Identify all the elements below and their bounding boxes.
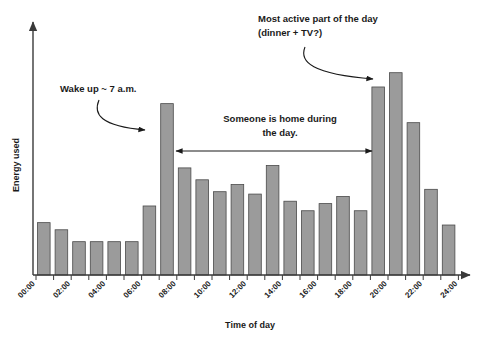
chart-canvas: 00:0002:0004:0006:0008:0010:0012:0014:00… [0,0,500,340]
bar [319,204,332,275]
x-tick-label: 08:00 [157,279,178,300]
bar [390,73,403,275]
bar [337,196,350,275]
x-tick-label: 14:00 [262,279,283,300]
energy-usage-bar-chart: 00:0002:0004:0006:0008:0010:0012:0014:00… [0,0,500,340]
bar [407,123,420,275]
annotation-most-active-label-line1: Most active part of the day [258,13,379,24]
x-tick-label: 12:00 [227,279,248,300]
x-tick-label: 20:00 [368,279,389,300]
annotation-most-active: Most active part of the day (dinner + TV… [258,13,379,79]
bar [372,87,385,275]
bar [266,166,279,275]
bar [73,242,86,275]
annotation-most-active-arrow-icon [304,47,373,79]
x-tick-label: 22:00 [403,279,424,300]
bar [161,104,174,275]
bar [354,211,367,275]
bars-group [38,73,455,275]
bar [55,230,68,275]
x-tick-label: 24:00 [438,279,459,300]
annotation-most-active-label-line2: (dinner + TV?) [258,27,322,38]
annotation-wake-up-arrow-icon [97,100,145,130]
bar [231,185,244,275]
bar [249,194,262,275]
x-tick-label: 18:00 [333,279,354,300]
y-axis-title: Energy used [11,138,21,192]
x-tick-labels: 00:0002:0004:0006:0008:0010:0012:0014:00… [16,279,460,300]
bar [90,242,103,275]
x-tick-label: 06:00 [122,279,143,300]
bar [108,242,121,275]
bar [38,223,51,275]
x-tick-label: 16:00 [298,279,319,300]
bar [126,242,139,275]
x-axis-title: Time of day [225,320,275,330]
bar [284,201,297,275]
x-tick-label: 10:00 [192,279,213,300]
annotation-someone-home-label-line2: the day. [262,127,297,138]
bar [214,192,227,275]
bar [302,211,315,275]
x-tick-label: 02:00 [51,279,72,300]
annotation-wake-up: Wake up ~ 7 a.m. [60,83,145,130]
x-tick-label: 00:00 [16,279,37,300]
bar [425,189,438,275]
annotation-wake-up-label: Wake up ~ 7 a.m. [60,83,136,94]
bar [143,206,156,275]
annotation-someone-home: Someone is home during the day. [176,113,372,151]
bar [178,168,191,275]
bar [442,225,455,275]
annotation-someone-home-label-line1: Someone is home during [223,113,337,124]
bar [196,180,209,275]
x-tick-label: 04:00 [86,279,107,300]
